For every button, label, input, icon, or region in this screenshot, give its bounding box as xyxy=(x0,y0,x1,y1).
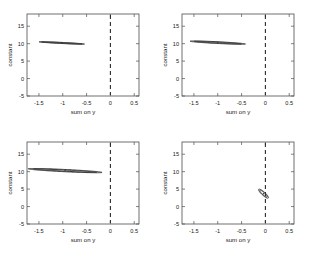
y-tick-label: 15 xyxy=(173,151,179,157)
x-axis-title: sum on y xyxy=(226,236,252,243)
ellipse-center-point xyxy=(61,42,62,43)
ellipse-center-point xyxy=(263,193,264,194)
panel-plot-area: -1.5-1-0.500.5-5051015sum on yconstant xyxy=(0,130,154,259)
figure-canvas: -1.5-1-0.500.5-5051015sum on yconstant-1… xyxy=(0,0,309,259)
axes-frame xyxy=(27,142,139,224)
x-tick-label: -1.5 xyxy=(189,100,199,106)
axes-frame xyxy=(182,142,294,224)
x-tick-label: -1.5 xyxy=(34,100,44,106)
x-tick-label: 0 xyxy=(109,228,112,234)
panel-plot-area: -1.5-1-0.500.5-5051015sum on yconstant xyxy=(0,2,154,131)
x-tick-label: -0.5 xyxy=(237,100,247,106)
axes-frame xyxy=(27,14,139,96)
panel-plot-area: -1.5-1-0.500.5-5051015sum on yconstant xyxy=(155,130,309,259)
x-axis-title: sum on y xyxy=(71,236,97,243)
x-tick-label: 0.5 xyxy=(285,228,293,234)
ellipse-center-point xyxy=(64,170,65,171)
y-tick-label: 15 xyxy=(173,23,179,29)
x-tick-label: -1.5 xyxy=(189,228,199,234)
x-tick-label: 0 xyxy=(264,100,267,106)
x-tick-label: -1.5 xyxy=(34,228,44,234)
y-tick-label: 5 xyxy=(176,186,179,192)
x-axis-title: sum on y xyxy=(226,108,252,115)
panel-plot-area: -1.5-1-0.500.5-5051015sum on yconstant xyxy=(155,2,309,131)
x-tick-label: 0.5 xyxy=(130,228,138,234)
x-tick-label: -1 xyxy=(215,100,220,106)
y-tick-label: 10 xyxy=(173,169,179,175)
x-tick-label: -1 xyxy=(60,228,65,234)
y-tick-label: 5 xyxy=(21,58,24,64)
chart-panel-top-right: -1.5-1-0.500.5-5051015sum on yconstant xyxy=(155,2,309,131)
ellipse-center-point xyxy=(217,42,218,43)
x-tick-label: -1 xyxy=(215,228,220,234)
chart-panel-bottom-right: -1.5-1-0.500.5-5051015sum on yconstant xyxy=(155,130,309,259)
y-tick-label: 10 xyxy=(18,169,24,175)
y-axis-title: constant xyxy=(6,43,13,66)
x-tick-label: 0.5 xyxy=(285,100,293,106)
y-axis-title: constant xyxy=(161,171,168,194)
y-tick-label: -5 xyxy=(19,221,24,227)
x-tick-label: -0.5 xyxy=(82,228,92,234)
y-tick-label: 0 xyxy=(176,204,179,210)
y-tick-label: 0 xyxy=(176,76,179,82)
y-axis-title: constant xyxy=(6,171,13,194)
y-tick-label: 5 xyxy=(176,58,179,64)
y-tick-label: 10 xyxy=(18,41,24,47)
x-tick-label: 0 xyxy=(264,228,267,234)
x-tick-label: -0.5 xyxy=(237,228,247,234)
y-tick-label: -5 xyxy=(174,221,179,227)
x-tick-label: 0.5 xyxy=(130,100,138,106)
y-tick-label: 0 xyxy=(21,204,24,210)
y-tick-label: 0 xyxy=(21,76,24,82)
y-tick-label: 10 xyxy=(173,41,179,47)
x-tick-label: 0 xyxy=(109,100,112,106)
chart-panel-bottom-left: -1.5-1-0.500.5-5051015sum on yconstant xyxy=(0,130,154,259)
chart-panel-top-left: -1.5-1-0.500.5-5051015sum on yconstant xyxy=(0,2,154,131)
y-axis-title: constant xyxy=(161,43,168,66)
x-axis-title: sum on y xyxy=(71,108,97,115)
y-tick-label: -5 xyxy=(19,93,24,99)
y-tick-label: 15 xyxy=(18,151,24,157)
x-tick-label: -1 xyxy=(60,100,65,106)
x-tick-label: -0.5 xyxy=(82,100,92,106)
axes-frame xyxy=(182,14,294,96)
y-tick-label: 5 xyxy=(21,186,24,192)
y-tick-label: -5 xyxy=(174,93,179,99)
y-tick-label: 15 xyxy=(18,23,24,29)
